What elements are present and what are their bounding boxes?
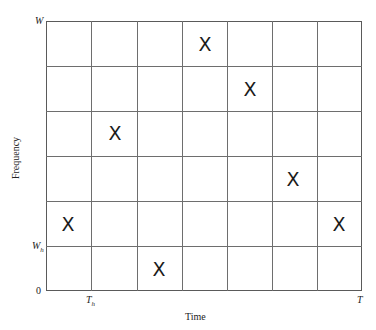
grid-hline [46, 246, 362, 247]
y-axis-title: Frequency [11, 136, 21, 180]
hop-marker: X [152, 260, 165, 279]
hop-marker: X [198, 35, 211, 54]
hop-marker: X [243, 80, 256, 99]
y-tick-wh: Wh [32, 241, 44, 254]
hop-marker: X [61, 215, 74, 234]
y-tick-w: W [35, 16, 43, 26]
grid-hline [46, 156, 362, 157]
hop-marker: X [286, 170, 299, 189]
x-tick-t: T [357, 295, 363, 305]
grid-hline [46, 111, 362, 112]
y-tick-zero: 0 [36, 286, 41, 296]
x-tick-th: Th [86, 295, 95, 308]
grid-hline [46, 66, 362, 67]
x-axis-title: Time [185, 312, 206, 322]
grid-hline [46, 201, 362, 202]
hop-marker: X [108, 124, 121, 143]
hop-marker: X [332, 215, 345, 234]
